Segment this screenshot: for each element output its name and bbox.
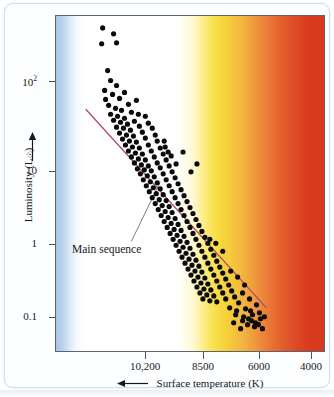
- star-data-point: [194, 284, 199, 289]
- star-data-point: [200, 296, 205, 301]
- y-axis-tick: [49, 244, 56, 245]
- star-data-point: [142, 167, 147, 172]
- star-data-point: [167, 183, 172, 188]
- star-data-point: [140, 151, 145, 156]
- star-data-point: [202, 255, 207, 260]
- star-data-point: [197, 290, 202, 295]
- star-data-point: [123, 142, 128, 147]
- star-data-point: [117, 96, 122, 101]
- y-axis-tick: [49, 317, 56, 318]
- star-data-point: [143, 157, 148, 162]
- star-data-point: [214, 299, 219, 304]
- star-data-point: [156, 207, 161, 212]
- star-data-point: [155, 138, 160, 143]
- star-data-point: [132, 160, 137, 165]
- star-data-point: [188, 169, 193, 174]
- star-data-point: [190, 252, 195, 257]
- star-data-point: [176, 181, 181, 186]
- star-data-point: [157, 197, 162, 202]
- star-data-point: [158, 145, 163, 150]
- star-data-point: [137, 145, 142, 150]
- star-data-point: [162, 138, 167, 143]
- y-axis-tick: [49, 81, 56, 82]
- x-axis-left-arrow-icon: [117, 379, 149, 388]
- star-data-point: [245, 322, 250, 327]
- star-data-point: [183, 251, 188, 256]
- star-data-point: [146, 163, 151, 168]
- star-data-point: [124, 133, 129, 138]
- star-data-point: [187, 246, 192, 251]
- star-data-point: [155, 160, 160, 165]
- star-data-point: [186, 257, 191, 262]
- star-data-point: [150, 195, 155, 200]
- star-data-point: [181, 213, 186, 218]
- star-data-point: [187, 225, 192, 230]
- star-data-point: [120, 136, 125, 141]
- star-data-point: [232, 294, 237, 299]
- star-data-point: [136, 156, 141, 161]
- star-data-point: [143, 114, 148, 119]
- scatter-plot-canvas: [56, 16, 324, 351]
- star-data-point: [127, 138, 132, 143]
- star-data-point: [144, 183, 149, 188]
- star-data-point: [138, 171, 143, 176]
- x-axis-tick: [311, 352, 312, 359]
- star-data-point: [196, 223, 201, 228]
- star-data-point: [161, 171, 166, 176]
- star-data-point: [241, 314, 246, 319]
- star-data-point: [137, 124, 142, 129]
- page-bottom-rule: [0, 390, 334, 397]
- star-data-point: [140, 130, 145, 135]
- star-data-point: [174, 243, 179, 248]
- star-data-point: [115, 114, 120, 119]
- star-data-point: [217, 284, 222, 289]
- star-data-point: [128, 128, 133, 133]
- star-data-point: [195, 274, 200, 279]
- star-data-point: [220, 270, 225, 275]
- star-data-point: [111, 118, 116, 123]
- star-data-point: [171, 237, 176, 242]
- star-data-point: [254, 302, 259, 307]
- star-data-point: [114, 125, 119, 130]
- star-data-point: [108, 78, 113, 83]
- star-data-point: [164, 157, 169, 162]
- star-data-point: [102, 88, 107, 93]
- star-data-point: [170, 210, 175, 215]
- star-data-point: [181, 193, 186, 198]
- star-data-point: [189, 263, 194, 268]
- star-data-point: [181, 234, 186, 239]
- star-data-point: [204, 292, 209, 297]
- star-data-point: [223, 296, 228, 301]
- star-data-point: [100, 25, 105, 30]
- star-data-point: [169, 221, 174, 226]
- star-data-point: [180, 149, 185, 154]
- star-data-point: [208, 267, 213, 272]
- star-data-point: [166, 215, 171, 220]
- star-data-point: [208, 247, 213, 252]
- star-data-point: [249, 318, 254, 323]
- star-data-point: [145, 173, 150, 178]
- star-data-point: [153, 133, 158, 138]
- star-data-point: [227, 305, 232, 310]
- star-data-point: [211, 293, 216, 298]
- star-data-point: [178, 187, 183, 192]
- star-data-point: [182, 261, 187, 266]
- star-data-point: [151, 185, 156, 190]
- star-data-point: [105, 68, 110, 73]
- star-data-point: [193, 237, 198, 242]
- star-data-point: [114, 83, 119, 88]
- star-data-point: [184, 219, 189, 224]
- star-data-point: [119, 108, 124, 113]
- star-data-point: [211, 272, 216, 277]
- star-data-point: [111, 31, 116, 36]
- star-data-point: [180, 245, 185, 250]
- star-data-point: [169, 153, 174, 158]
- star-data-point: [196, 243, 201, 248]
- star-data-point: [177, 239, 182, 244]
- star-data-point: [235, 274, 240, 279]
- star-data-point: [191, 278, 196, 283]
- y-axis-tick-label: 102: [22, 75, 37, 88]
- star-data-point: [220, 249, 225, 254]
- figure-card: 1021010.1 Luminosity (L☉) 10,20085006000…: [4, 3, 330, 388]
- star-data-point: [228, 269, 233, 274]
